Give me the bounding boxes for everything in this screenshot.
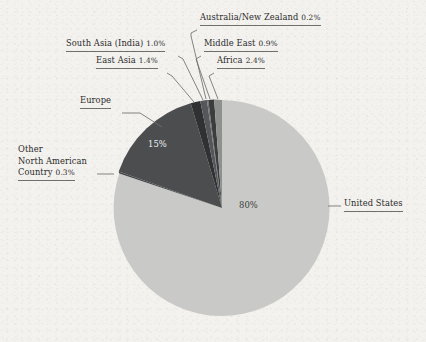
callout-label-africa: Africa2.4% <box>217 55 265 69</box>
label-pct-east-asia: 1.4% <box>139 56 158 65</box>
label-text-other-na-line3: Country <box>18 167 53 177</box>
callout-label-australia-new-zealand: Australia/New Zealand0.2% <box>200 12 321 26</box>
callout-label-europe: Europe <box>80 95 111 109</box>
label-text-united-states: United States <box>344 198 403 208</box>
label-pct-australia-new-zealand: 0.2% <box>301 13 320 22</box>
slice-percent-united-states: 80% <box>239 200 258 210</box>
label-text-other-na-line2: North American <box>18 156 87 168</box>
leader-line-middle-east-2 <box>196 59 210 99</box>
leader-line-africa <box>209 73 214 76</box>
label-pct-africa: 2.4% <box>246 56 265 65</box>
leader-line-africa-2 <box>209 76 218 99</box>
leader-line-australia-new-zealand <box>191 30 197 36</box>
callout-label-united-states: United States <box>344 198 403 212</box>
label-pct-south-asia-india: 1.0% <box>146 39 165 48</box>
callout-label-middle-east: Middle East0.9% <box>204 38 278 52</box>
label-text-east-asia: East Asia <box>96 55 136 65</box>
label-text-middle-east: Middle East <box>204 38 255 48</box>
callout-label-other-north-american-country: Other North American Country0.3% <box>18 144 87 181</box>
label-text-africa: Africa <box>217 55 243 65</box>
label-text-australia-new-zealand: Australia/New Zealand <box>200 12 298 22</box>
label-text-other-na-line1: Other <box>18 144 87 156</box>
leader-line-east-asia-2 <box>172 76 194 102</box>
slice-percent-europe: 15% <box>148 139 167 149</box>
callout-label-south-asia-india: South Asia (India)1.0% <box>66 38 165 52</box>
leader-line-south-asia-india <box>178 56 183 59</box>
leader-line-east-asia <box>167 73 172 76</box>
label-pct-middle-east: 0.9% <box>258 39 277 48</box>
label-pct-other-north-american-country: 0.3% <box>56 168 75 177</box>
label-text-south-asia-india: South Asia (India) <box>66 38 143 48</box>
label-text-europe: Europe <box>80 95 111 105</box>
leader-line-middle-east <box>196 56 201 59</box>
leader-line-south-asia-india-2 <box>183 59 203 100</box>
callout-label-east-asia: East Asia1.4% <box>96 55 158 69</box>
